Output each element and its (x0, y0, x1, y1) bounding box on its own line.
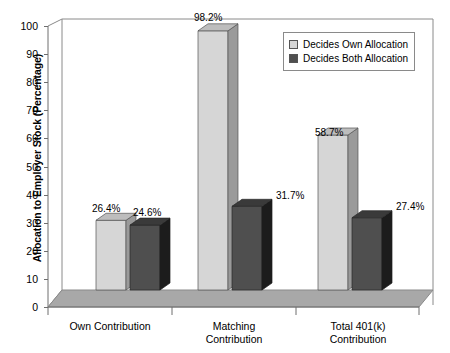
y-tick-label-30: 30 (8, 218, 38, 228)
y-axis-tick (44, 279, 48, 280)
y-tick-label-10: 10 (8, 274, 38, 284)
legend-swatch-decides-both-allocation (289, 54, 298, 63)
y-tick-label-60: 60 (8, 133, 38, 143)
y-tick-label-20: 20 (8, 246, 38, 256)
value-label-matching-contribution-decides-both: 31.7% (276, 190, 304, 201)
bar-matching-contribution-decides-both (232, 199, 272, 290)
y-axis-tick (44, 26, 48, 27)
legend: Decides Own Allocation Decides Both Allo… (283, 32, 415, 71)
y-axis-tick (44, 223, 48, 224)
legend-label-decides-own-allocation: Decides Own Allocation (303, 39, 408, 50)
y-axis-tick (44, 138, 48, 139)
value-label-total-401k-contribution-decides-own: 58.7% (315, 127, 343, 138)
y-axis-tick (44, 54, 48, 55)
depth-edge-top-left (48, 19, 62, 26)
y-axis-tick (44, 167, 48, 168)
value-label-total-401k-contribution-decides-both: 27.4% (396, 201, 424, 212)
y-axis-tick (44, 110, 48, 111)
chart-container: Allocation to Employer Stock (Percentage… (0, 0, 450, 353)
y-tick-label-100: 100 (8, 21, 38, 31)
y-tick-label-70: 70 (8, 105, 38, 115)
bar-own-contribution-decides-both (130, 218, 170, 290)
y-tick-label-50: 50 (8, 162, 38, 172)
x-category-label-matching-contribution: Matching Contribution (175, 320, 293, 345)
value-label-own-contribution-decides-own: 26.4% (92, 203, 120, 214)
y-tick-label-90: 90 (8, 49, 38, 59)
y-tick-label-0: 0 (8, 302, 38, 312)
value-label-matching-contribution-decides-own: 98.2% (194, 12, 222, 23)
legend-swatch-decides-own-allocation (289, 40, 298, 49)
bar-total-401k-contribution-decides-both (352, 211, 392, 290)
x-category-label-total-401k-contribution: Total 401(k) Contribution (298, 320, 418, 345)
y-axis-tick (44, 251, 48, 252)
floor-plane (48, 290, 433, 307)
y-tick-label-80: 80 (8, 77, 38, 87)
y-axis-tick (44, 82, 48, 83)
legend-item-decides-both-allocation: Decides Both Allocation (289, 52, 408, 65)
y-axis-tick (44, 307, 48, 308)
y-axis-tick (44, 195, 48, 196)
legend-label-decides-both-allocation: Decides Both Allocation (303, 53, 408, 64)
legend-item-decides-own-allocation: Decides Own Allocation (289, 38, 408, 51)
value-label-own-contribution-decides-both: 24.6% (133, 207, 161, 218)
x-category-label-own-contribution: Own Contribution (50, 320, 170, 333)
y-tick-label-40: 40 (8, 190, 38, 200)
